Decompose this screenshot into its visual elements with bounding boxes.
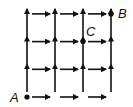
directed-grid-diagram: ABC — [0, 0, 133, 107]
point-label: C — [86, 24, 96, 39]
point-dot — [24, 94, 29, 99]
point-dot — [108, 11, 113, 16]
point-label: B — [118, 6, 127, 21]
grid-edges — [27, 9, 111, 97]
point-dot — [80, 39, 85, 44]
point-label: A — [9, 90, 19, 105]
point-a: A — [9, 90, 30, 105]
